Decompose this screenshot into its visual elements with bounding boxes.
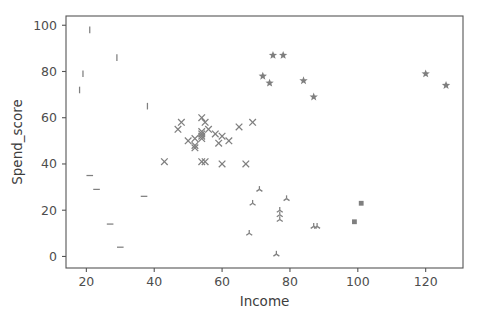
- data-point-x: [198, 114, 205, 121]
- series-cluster-square: [352, 201, 364, 224]
- x-tick-label: 20: [78, 274, 94, 289]
- data-point-tri_down: [250, 200, 256, 205]
- data-point-x: [202, 158, 209, 165]
- x-tick-label: 120: [414, 274, 438, 289]
- data-point-x: [215, 140, 222, 147]
- y-tick-label: 40: [41, 156, 57, 171]
- data-point-star: [421, 69, 429, 77]
- plot-frame: [66, 16, 463, 268]
- data-point-square: [359, 201, 364, 206]
- series-cluster-vline: [80, 27, 148, 110]
- data-point-x: [236, 124, 243, 131]
- y-tick-label: 20: [41, 203, 57, 218]
- data-point-x: [219, 161, 226, 168]
- data-point-x: [243, 161, 250, 168]
- series-cluster-x: [161, 114, 256, 167]
- x-axis-label: Income: [240, 293, 290, 309]
- x-tick-label: 60: [214, 274, 230, 289]
- x-tick-label: 40: [146, 274, 162, 289]
- series-cluster-star: [259, 51, 451, 101]
- x-tick-label: 80: [282, 274, 298, 289]
- axes-layer: [62, 16, 463, 272]
- data-point-tri_down: [314, 223, 320, 228]
- data-point-tri_down: [273, 251, 279, 256]
- data-point-star: [442, 81, 450, 89]
- data-point-x: [175, 126, 182, 133]
- data-point-x: [161, 158, 168, 165]
- scatter-plot-figure: 20406080100120020406080100IncomeSpend_sc…: [0, 0, 482, 319]
- data-point-tri_down: [277, 207, 283, 212]
- data-point-x: [185, 138, 192, 145]
- data-point-square: [352, 219, 357, 224]
- series-cluster-hline: [86, 176, 147, 248]
- data-point-tri_down: [284, 195, 290, 200]
- data-point-x: [249, 119, 256, 126]
- data-point-x: [219, 133, 226, 140]
- data-point-tri_down: [246, 230, 252, 235]
- plot-canvas: 20406080100120020406080100IncomeSpend_sc…: [0, 0, 482, 319]
- data-point-x: [198, 158, 205, 165]
- y-tick-label: 0: [49, 249, 57, 264]
- x-tick-label: 100: [346, 274, 370, 289]
- data-point-star: [279, 51, 287, 59]
- data-point-x: [202, 119, 209, 126]
- y-tick-label: 100: [33, 18, 57, 33]
- data-point-x: [205, 126, 212, 133]
- markers-layer: [80, 27, 451, 257]
- data-point-star: [269, 51, 277, 59]
- data-point-x: [192, 135, 199, 142]
- data-point-tri_down: [256, 186, 262, 191]
- y-tick-label: 80: [41, 64, 57, 79]
- data-point-x: [212, 131, 219, 138]
- y-axis-label: Spend_score: [9, 99, 25, 185]
- data-point-star: [310, 93, 318, 101]
- series-cluster-tri-down: [246, 186, 320, 256]
- data-point-x: [178, 119, 185, 126]
- data-point-star: [265, 79, 273, 87]
- data-point-x: [226, 138, 233, 145]
- y-tick-label: 60: [41, 110, 57, 125]
- data-point-star: [299, 76, 307, 84]
- data-point-star: [259, 72, 267, 80]
